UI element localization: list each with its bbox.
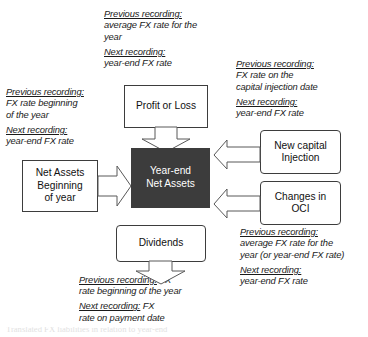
note-profit-or-loss-next-value: year-end FX rate: [104, 57, 197, 68]
arrow-dividends-outflow-icon: [133, 261, 189, 285]
box-year-end-net-assets: Year-end Net Assets: [131, 148, 210, 208]
box-profit-or-loss: Profit or Loss: [124, 85, 208, 128]
box-profit-or-loss-label: Profit or Loss: [136, 100, 196, 112]
note-changes-in-oci-previous-value-line2: year (or year-end FX rate): [240, 249, 344, 260]
box-new-capital-injection: New capital Injection: [260, 130, 341, 174]
arrow-changes-in-oci-to-net-assets-icon: [213, 188, 261, 220]
note-profit-or-loss-previous-label: Previous recording:: [104, 8, 182, 19]
box-changes-in-oci-line-2: OCI: [275, 203, 327, 215]
note-changes-in-oci: Previous recording: average FX rate for …: [240, 226, 344, 287]
note-net-assets-beginning-previous-label: Previous recording:: [6, 86, 84, 97]
note-dividends-next-value-line1: FX: [143, 300, 155, 311]
note-new-capital-injection: Previous recording: FX rate on the capit…: [236, 58, 318, 119]
cropped-caption-text: Translated FX liabilities in relation to…: [6, 327, 167, 334]
box-net-assets-beginning-line-2: Beginning: [36, 180, 85, 192]
note-profit-or-loss-previous-value-line2: year: [104, 31, 197, 42]
box-year-end-net-assets-line-1: Year-end: [146, 165, 195, 178]
note-changes-in-oci-next-label: Next recording:: [240, 264, 301, 275]
box-net-assets-beginning-line-3: of year: [36, 192, 85, 204]
box-year-end-net-assets-line-2: Net Assets: [146, 178, 195, 191]
note-changes-in-oci-previous-value-line1: average FX rate for the: [240, 237, 344, 248]
note-profit-or-loss-previous-value-line1: average FX rate for the: [104, 19, 197, 30]
box-changes-in-oci: Changes in OCI: [260, 181, 341, 225]
note-new-capital-injection-next-label: Next recording:: [236, 96, 297, 107]
note-net-assets-beginning-next-value: year-end FX rate: [6, 135, 84, 146]
note-new-capital-injection-previous-value-line2: capital injection date: [236, 81, 318, 92]
note-net-assets-beginning-previous-value-line2: of the year: [6, 109, 84, 120]
note-profit-or-loss-next-label: Next recording:: [104, 46, 165, 57]
note-dividends-previous-value-line2: rate beginning of the year: [79, 285, 181, 296]
note-profit-or-loss: Previous recording: average FX rate for …: [104, 8, 197, 69]
box-changes-in-oci-line-1: Changes in: [275, 191, 327, 203]
fx-translation-diagram: Previous recording: average FX rate for …: [0, 0, 368, 337]
box-dividends: Dividends: [116, 225, 206, 262]
note-dividends-next-label: Next recording:: [79, 300, 140, 311]
note-changes-in-oci-previous-label: Previous recording:: [240, 226, 318, 237]
arrow-new-capital-injection-to-net-assets-icon: [213, 139, 261, 171]
note-net-assets-beginning: Previous recording: FX rate beginning of…: [6, 86, 84, 147]
note-dividends-next-value-line2: rate on payment date: [79, 312, 181, 323]
box-new-capital-injection-line-1: New capital: [274, 140, 327, 152]
note-new-capital-injection-previous-label: Previous recording:: [236, 58, 314, 69]
note-net-assets-beginning-previous-value-line1: FX rate beginning: [6, 97, 84, 108]
note-net-assets-beginning-next-label: Next recording:: [6, 124, 67, 135]
box-new-capital-injection-line-2: Injection: [274, 152, 327, 164]
note-new-capital-injection-previous-value-line1: FX rate on the: [236, 69, 318, 80]
cropped-caption: Translated FX liabilities in relation to…: [0, 327, 368, 337]
note-new-capital-injection-next-value: year-end FX rate: [236, 107, 318, 118]
box-net-assets-beginning-line-1: Net Assets: [36, 167, 85, 179]
box-dividends-label: Dividends: [139, 237, 184, 249]
box-net-assets-beginning: Net Assets Beginning of year: [22, 160, 98, 212]
note-changes-in-oci-next-value: year-end FX rate: [240, 275, 344, 286]
arrow-net-assets-beginning-to-net-assets-icon: [98, 165, 132, 207]
